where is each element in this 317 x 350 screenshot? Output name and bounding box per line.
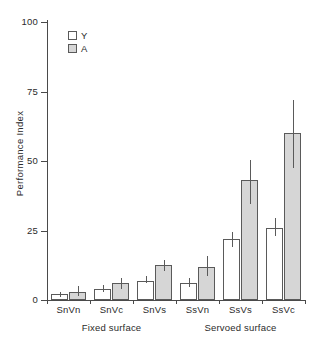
error-cap-SsVs-A xyxy=(245,180,256,181)
bar-SnVs-Y xyxy=(137,281,154,300)
group-label-fixed-surface: Fixed surface xyxy=(62,322,162,333)
error-cap-SsVc-Y xyxy=(270,228,281,229)
error-cap-SsVn-Y xyxy=(184,283,195,284)
error-cap-SnVs-Y xyxy=(141,281,152,282)
error-cap-SnVn-Y xyxy=(55,294,66,295)
y-tick-label-50: 50 xyxy=(8,155,38,166)
y-tick-label-25: 25 xyxy=(8,225,38,236)
error-cap-SnVc-Y xyxy=(98,289,109,290)
y-tick-label-100: 100 xyxy=(8,16,38,27)
y-tick-label-75: 75 xyxy=(8,86,38,97)
y-tick-label-0: 0 xyxy=(8,294,38,305)
error-cap-SnVn-A xyxy=(73,292,84,293)
error-cap-SsVs-Y xyxy=(227,239,238,240)
y-axis-title: Performance Index xyxy=(14,79,25,229)
error-cap-SsVc-A xyxy=(288,133,299,134)
group-label-servoed-surface: Servoed surface xyxy=(191,322,291,333)
plot-area xyxy=(47,22,305,300)
performance-index-bar-chart: Performance Index 0255075100 Y A SnVnSnV… xyxy=(0,0,317,350)
error-cap-SnVs-A xyxy=(159,265,170,266)
error-bar-SsVs-A xyxy=(250,160,251,204)
bar-SsVc-Y xyxy=(266,228,283,300)
bar-SsVs-Y xyxy=(223,239,240,300)
x-axis-label-SsVc: SsVc xyxy=(259,304,309,315)
error-cap-SsVn-A xyxy=(202,267,213,268)
error-cap-SnVc-A xyxy=(116,283,127,284)
